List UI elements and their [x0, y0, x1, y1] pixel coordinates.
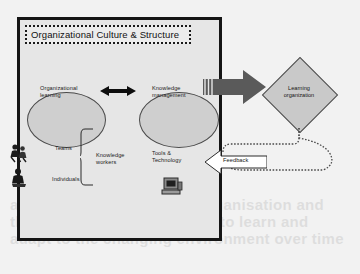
panel-title-box: Organizational Culture & Structure — [25, 25, 191, 44]
diagram-canvas: and the way in which the organisation an… — [0, 0, 360, 274]
node-learning-organization: Learning organization — [262, 57, 336, 131]
people-group-icon — [8, 142, 30, 164]
feedback-label: Feedback — [223, 157, 248, 163]
label-individuals: Individuals — [52, 176, 80, 183]
bidirectional-arrow-icon — [100, 85, 136, 97]
label-knowledge-workers: Knowledge workers — [96, 152, 125, 165]
label-teams: Teams — [55, 145, 72, 152]
person-seated-icon — [8, 166, 30, 188]
node-knowledge-management-label: Knowledge management — [152, 85, 186, 98]
node-learning-organization-label: Learning organization — [262, 85, 336, 98]
node-organizational-learning-label: Organizational learning — [40, 85, 77, 98]
computer-icon — [160, 176, 184, 198]
label-tools-technology: Tools & Technology — [152, 150, 181, 163]
panel-title: Organizational Culture & Structure — [31, 29, 179, 40]
block-arrow-icon — [203, 70, 266, 104]
